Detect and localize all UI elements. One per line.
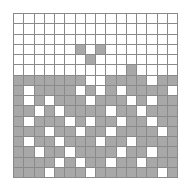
- grid-cell: [86, 158, 96, 168]
- grid-cell: [147, 137, 157, 147]
- grid-cell: [24, 14, 34, 24]
- grid-cell: [117, 86, 127, 96]
- grid-cell: [168, 158, 178, 168]
- grid-cell: [106, 24, 116, 34]
- grid-cell: [106, 127, 116, 137]
- grid-cell: [55, 117, 65, 127]
- grid-cell: [55, 76, 65, 86]
- grid-cell: [76, 86, 86, 96]
- grid-cell: [117, 106, 127, 116]
- grid-cell: [117, 168, 127, 178]
- grid-cell: [158, 147, 168, 157]
- grid-cell: [76, 158, 86, 168]
- grid-cell: [45, 14, 55, 24]
- grid-cell: [55, 147, 65, 157]
- grid-cell: [86, 14, 96, 24]
- grid-cell: [35, 14, 45, 24]
- grid-cell: [14, 168, 24, 178]
- grid-cell: [14, 86, 24, 96]
- grid-cell: [55, 158, 65, 168]
- grid-cell: [35, 96, 45, 106]
- grid-cell: [45, 45, 55, 55]
- grid-cell: [65, 106, 75, 116]
- grid-cell: [24, 147, 34, 157]
- grid-cell: [14, 158, 24, 168]
- grid-cell: [106, 45, 116, 55]
- grid-cell: [106, 96, 116, 106]
- grid-cell: [14, 45, 24, 55]
- grid-cell: [55, 35, 65, 45]
- grid-cell: [65, 65, 75, 75]
- grid-cell: [106, 35, 116, 45]
- grid-cell: [147, 86, 157, 96]
- grid-cell: [158, 65, 168, 75]
- grid-cell: [117, 96, 127, 106]
- grid-cell: [35, 35, 45, 45]
- grid-cell: [147, 106, 157, 116]
- grid-cell: [96, 55, 106, 65]
- grid-cell: [117, 24, 127, 34]
- grid-cell: [96, 147, 106, 157]
- grid-cell: [65, 86, 75, 96]
- grid-cell: [147, 117, 157, 127]
- grid-cell: [137, 24, 147, 34]
- grid-cell: [14, 14, 24, 24]
- grid-cell: [35, 117, 45, 127]
- grid-cell: [158, 24, 168, 34]
- grid-cell: [106, 158, 116, 168]
- grid-cell: [117, 147, 127, 157]
- grid-cell: [35, 137, 45, 147]
- grid-cell: [127, 168, 137, 178]
- grid-cell: [117, 117, 127, 127]
- grid-cell: [14, 106, 24, 116]
- grid-cell: [65, 127, 75, 137]
- grid-cell: [35, 168, 45, 178]
- grid-cell: [158, 35, 168, 45]
- grid-cell: [14, 117, 24, 127]
- grid-cell: [127, 24, 137, 34]
- grid-cell: [147, 127, 157, 137]
- grid-cell: [76, 106, 86, 116]
- grid-cell: [24, 117, 34, 127]
- grid-cell: [158, 76, 168, 86]
- grid-cell: [76, 14, 86, 24]
- grid-cell: [106, 117, 116, 127]
- grid-cell: [168, 35, 178, 45]
- grid-cell: [55, 45, 65, 55]
- grid-cell: [86, 137, 96, 147]
- grid-cell: [158, 106, 168, 116]
- grid-cell: [76, 24, 86, 34]
- grid-cell: [55, 24, 65, 34]
- grid-cell: [96, 24, 106, 34]
- grid-cell: [45, 147, 55, 157]
- grid-cell: [96, 65, 106, 75]
- grid-cell: [127, 137, 137, 147]
- grid-cell: [24, 45, 34, 55]
- grid-cell: [147, 55, 157, 65]
- grid-cell: [168, 55, 178, 65]
- grid-cell: [45, 137, 55, 147]
- grid-cell: [24, 137, 34, 147]
- grid-cell: [168, 45, 178, 55]
- grid-cell: [76, 65, 86, 75]
- grid-cell: [86, 147, 96, 157]
- grid-cell: [76, 45, 86, 55]
- grid-cell: [168, 76, 178, 86]
- grid-cell: [117, 45, 127, 55]
- grid-cell: [24, 86, 34, 96]
- grid-cell: [14, 24, 24, 34]
- grid-cell: [158, 45, 168, 55]
- grid-cell: [137, 45, 147, 55]
- grid-cell: [158, 14, 168, 24]
- grid-cell: [127, 14, 137, 24]
- grid-cell: [127, 147, 137, 157]
- grid-cell: [35, 45, 45, 55]
- grid-cell: [45, 158, 55, 168]
- grid-cell: [158, 137, 168, 147]
- grid-cell: [127, 117, 137, 127]
- grid-cell: [147, 14, 157, 24]
- grid-cell: [24, 24, 34, 34]
- grid-cell: [158, 86, 168, 96]
- grid-cell: [35, 158, 45, 168]
- grid-cell: [24, 168, 34, 178]
